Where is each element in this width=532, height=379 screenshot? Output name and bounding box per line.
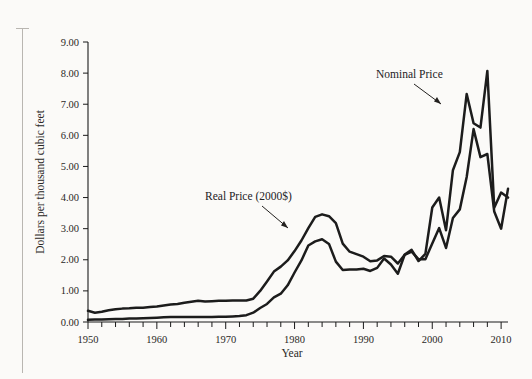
x-tick-label: 1970 bbox=[215, 334, 236, 345]
y-axis-title: Dollars per thousand cubic feet bbox=[34, 109, 47, 254]
y-tick-label: 0.00 bbox=[61, 317, 79, 328]
y-tick-label: 5.00 bbox=[61, 161, 79, 172]
natural-gas-price-chart: 0.001.002.003.004.005.006.007.008.009.00… bbox=[0, 0, 532, 379]
x-tick-label: 1980 bbox=[284, 334, 305, 345]
y-axis-ticks bbox=[83, 42, 88, 322]
figure-page: 0.001.002.003.004.005.006.007.008.009.00… bbox=[0, 0, 532, 379]
annotation-arrowhead-real-price bbox=[281, 221, 288, 228]
x-tick-label: 2000 bbox=[422, 334, 443, 345]
x-axis-tick-labels: 1950196019701980199020002010 bbox=[78, 334, 512, 345]
annotation-label-real-price: Real Price (2000$) bbox=[205, 190, 292, 203]
y-tick-label: 6.00 bbox=[61, 130, 79, 141]
series-line-nominal-price bbox=[88, 71, 508, 320]
x-axis-title: Year bbox=[281, 347, 302, 359]
y-tick-label: 3.00 bbox=[61, 223, 79, 234]
y-tick-label: 7.00 bbox=[61, 99, 79, 110]
y-tick-label: 9.00 bbox=[61, 37, 79, 48]
annotation-label-nominal-price: Nominal Price bbox=[376, 68, 443, 80]
y-tick-label: 1.00 bbox=[61, 285, 79, 296]
x-tick-label: 1990 bbox=[353, 334, 374, 345]
y-tick-label: 4.00 bbox=[61, 192, 79, 203]
x-tick-label: 1950 bbox=[78, 334, 99, 345]
x-tick-label: 1960 bbox=[146, 334, 167, 345]
y-tick-label: 8.00 bbox=[61, 68, 79, 79]
annotation-arrowhead-nominal-price bbox=[434, 97, 441, 104]
chart-series-group bbox=[88, 71, 508, 320]
y-axis-tick-labels: 0.001.002.003.004.005.006.007.008.009.00 bbox=[61, 37, 79, 328]
y-tick-label: 2.00 bbox=[61, 254, 79, 265]
x-tick-label: 2010 bbox=[491, 334, 512, 345]
x-axis-ticks bbox=[88, 322, 501, 329]
